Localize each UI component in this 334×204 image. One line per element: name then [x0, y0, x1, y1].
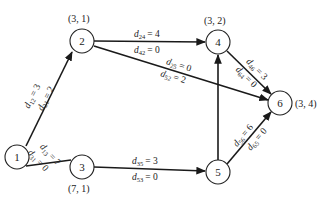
svg-text:2: 2 — [79, 35, 85, 47]
edge-label-d35: d35= 3 — [132, 156, 158, 167]
node-6-coord: (3, 4) — [295, 98, 317, 110]
node-3-coord: (7, 1) — [68, 183, 90, 195]
svg-text:5: 5 — [215, 166, 221, 178]
edge-3-5 — [94, 167, 205, 171]
node-2: 2 (3, 1) — [68, 13, 94, 53]
svg-text:4: 4 — [215, 36, 221, 48]
svg-text:6: 6 — [277, 97, 283, 109]
edge-2-4 — [94, 41, 205, 42]
node-1: 1 — [5, 145, 29, 169]
node-3: 3 (7, 1) — [68, 155, 94, 195]
edge-label-d53: d53= 0 — [132, 172, 158, 183]
node-6: 6 (3, 4) — [268, 91, 317, 115]
edge-label-d24: d24= 4 — [134, 29, 160, 40]
svg-text:1: 1 — [14, 151, 20, 163]
network-flow-diagram: d12= 3 d21= 2 d13= 7 d31= 0 d24= 4 d42= … — [0, 0, 334, 204]
edge-5-6 — [227, 112, 271, 164]
svg-text:3: 3 — [79, 161, 85, 173]
node-5: 5 — [206, 160, 230, 184]
node-2-coord: (3, 1) — [68, 13, 90, 25]
node-4-coord: (3, 2) — [204, 15, 226, 27]
edge-label-d42: d42= 0 — [134, 45, 160, 56]
node-4: 4 (3, 2) — [204, 15, 230, 54]
